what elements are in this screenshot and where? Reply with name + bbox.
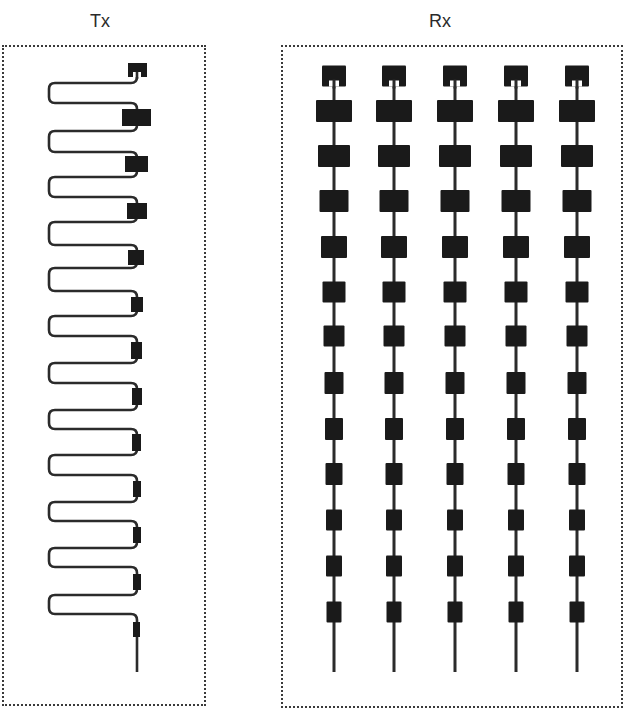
- rx-patch-element: [327, 602, 342, 623]
- tx-patch-element: [122, 109, 151, 126]
- rx-patch-element: [508, 463, 525, 485]
- rx-patch-element: [444, 282, 467, 303]
- rx-column-1: [316, 66, 352, 673]
- rx-patch-element: [385, 418, 403, 440]
- tx-patch-element: [128, 250, 144, 265]
- rx-patch-element: [387, 602, 402, 623]
- tx-patch-element: [131, 342, 142, 359]
- rx-patch-element: [376, 100, 412, 122]
- rx-patch-element: [442, 236, 468, 258]
- rx-patch-element: [569, 463, 586, 485]
- rx-column-3: [437, 66, 473, 673]
- rx-patch-element: [316, 100, 352, 122]
- tx-patch-element: [133, 622, 140, 637]
- rx-patch-element: [380, 190, 409, 212]
- rx-patch-element: [448, 602, 463, 623]
- rx-patch-element: [321, 236, 347, 258]
- rx-patch-element: [508, 510, 524, 531]
- rx-patch-element: [318, 145, 350, 167]
- rx-patch-element: [378, 145, 410, 167]
- tx-feed-line: [49, 70, 137, 672]
- tx-serpentine-array: [49, 63, 151, 672]
- tx-patch-element: [125, 156, 148, 172]
- rx-patch-element: [502, 190, 531, 212]
- rx-patch-element: [569, 556, 585, 577]
- rx-patch-element: [384, 326, 405, 347]
- rx-column-4: [498, 66, 534, 673]
- rx-patch-element: [437, 100, 473, 122]
- rx-patch-element: [385, 372, 404, 394]
- tx-patch-element: [131, 297, 143, 312]
- rx-patch-element: [447, 463, 464, 485]
- rx-patch-element: [500, 145, 532, 167]
- rx-patch-element: [507, 418, 525, 440]
- tx-patch-element: [132, 388, 142, 405]
- rx-patch-element: [503, 236, 529, 258]
- rx-patch-element: [567, 326, 588, 347]
- tx-patch-element: [132, 434, 141, 451]
- rx-patch-element: [325, 418, 343, 440]
- rx-patch-element: [383, 282, 406, 303]
- rx-patch-element: [568, 372, 587, 394]
- rx-patch-element: [326, 510, 342, 531]
- rx-patch-element: [386, 463, 403, 485]
- rx-patch-element: [563, 190, 592, 212]
- rx-patch-element: [566, 282, 589, 303]
- rx-patch-element: [570, 602, 585, 623]
- rx-patch-element: [320, 190, 349, 212]
- tx-patch-element: [133, 574, 141, 590]
- rx-patch-element: [441, 190, 470, 212]
- rx-patch-element: [326, 556, 342, 577]
- rx-patch-element: [506, 326, 527, 347]
- tx-patch-element: [133, 527, 141, 543]
- rx-patch-element: [445, 326, 466, 347]
- rx-patch-element: [559, 100, 595, 122]
- rx-column-2: [376, 66, 412, 673]
- rx-patch-element: [446, 372, 465, 394]
- rx-patch-element: [447, 510, 463, 531]
- rx-patch-element: [446, 418, 464, 440]
- rx-patch-element: [326, 463, 343, 485]
- antenna-layout-diagram: [0, 0, 628, 719]
- rx-patch-element: [381, 236, 407, 258]
- rx-patch-element: [508, 556, 524, 577]
- rx-patch-element: [498, 100, 534, 122]
- rx-patch-element: [507, 372, 526, 394]
- rx-patch-element: [324, 326, 345, 347]
- rx-patch-element: [386, 510, 402, 531]
- rx-patch-element: [569, 510, 585, 531]
- rx-patch-element: [325, 372, 344, 394]
- rx-patch-element: [323, 282, 346, 303]
- rx-patch-array: [316, 66, 595, 673]
- tx-patch-element: [127, 203, 147, 219]
- rx-column-5: [559, 66, 595, 673]
- rx-patch-element: [447, 556, 463, 577]
- rx-patch-element: [561, 145, 593, 167]
- rx-patch-element: [439, 145, 471, 167]
- rx-patch-element: [568, 418, 586, 440]
- rx-patch-element: [505, 282, 528, 303]
- rx-patch-element: [564, 236, 590, 258]
- rx-patch-element: [386, 556, 402, 577]
- tx-patch-element: [133, 481, 141, 497]
- rx-patch-element: [509, 602, 524, 623]
